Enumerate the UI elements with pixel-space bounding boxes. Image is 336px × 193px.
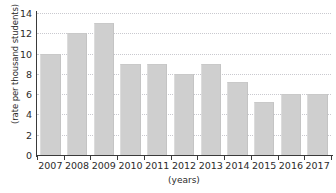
bar-slot (144, 13, 171, 155)
bar-slot (37, 13, 64, 155)
bar-slot (304, 13, 331, 155)
bar[interactable] (307, 94, 327, 155)
bar[interactable] (227, 82, 247, 155)
bar-slot (171, 13, 198, 155)
x-axis-tick-label: 2017 (306, 160, 330, 171)
x-axis-tick-label: 2009 (92, 160, 116, 171)
bar[interactable] (147, 64, 167, 155)
y-axis-tick-label: 0 (2, 150, 32, 161)
y-axis-tick-label: 4 (2, 109, 32, 120)
bar-slot (224, 13, 251, 155)
x-axis-title: (years) (37, 175, 331, 185)
bar-slot (278, 13, 305, 155)
bar[interactable] (174, 74, 194, 155)
bar-slot (117, 13, 144, 155)
y-axis-tick-label: 8 (2, 68, 32, 79)
bar[interactable] (120, 64, 140, 155)
bar[interactable] (281, 94, 301, 155)
plot-area (37, 13, 331, 155)
x-axis-tick-label: 2008 (65, 160, 89, 171)
bars-layer (37, 13, 331, 155)
x-axis-tick-label: 2011 (145, 160, 169, 171)
x-axis-tick-label: 2016 (279, 160, 303, 171)
x-axis-tick-labels: 2007200820092010201120122013201420152016… (37, 160, 331, 174)
bar-chart: (rate per thousand students) 02468101214… (0, 0, 336, 193)
y-axis-tick-label: 12 (2, 28, 32, 39)
bar[interactable] (201, 64, 221, 155)
bar-slot (197, 13, 224, 155)
y-axis-tick-label: 10 (2, 48, 32, 59)
bar-slot (251, 13, 278, 155)
bar[interactable] (40, 54, 60, 155)
y-axis-tick-label: 6 (2, 89, 32, 100)
x-axis-tick-label: 2014 (225, 160, 249, 171)
bar[interactable] (94, 23, 114, 155)
y-axis-line (36, 11, 37, 157)
x-axis-tick (331, 155, 332, 160)
bar[interactable] (254, 102, 274, 155)
bar-slot (64, 13, 91, 155)
y-axis-tick-label: 14 (2, 8, 32, 19)
x-axis-tick-label: 2013 (199, 160, 223, 171)
x-axis-tick-label: 2010 (118, 160, 142, 171)
bar-slot (90, 13, 117, 155)
y-axis-tick-label: 2 (2, 129, 32, 140)
x-axis-tick-label: 2012 (172, 160, 196, 171)
y-axis-tick-labels: 02468101214 (0, 13, 32, 155)
x-axis-tick-label: 2015 (252, 160, 276, 171)
x-axis-tick-label: 2007 (38, 160, 62, 171)
bar[interactable] (67, 33, 87, 155)
